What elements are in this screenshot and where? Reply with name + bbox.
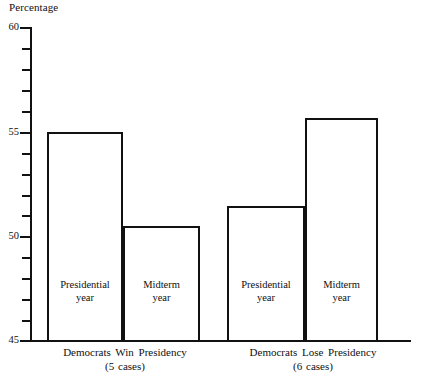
group-caption-lose-main: Democrats Lose Presidency — [215, 345, 411, 359]
y-tick-57 — [22, 90, 31, 92]
bar-win-presidential-label-line2: year — [49, 291, 121, 304]
group-caption-win: Democrats Win Presidency (5 cases) — [32, 345, 218, 373]
group-caption-lose: Democrats Lose Presidency (6 cases) — [215, 345, 411, 373]
bar-lose-presidential-label-line1: Presidential — [229, 278, 303, 291]
y-tick-48 — [22, 278, 31, 280]
bar-lose-presidential[interactable]: Presidential year — [227, 206, 305, 341]
y-tick-50 — [20, 236, 31, 238]
y-tick-58 — [22, 69, 31, 71]
bar-win-midterm-label-line1: Midterm — [125, 278, 198, 291]
y-tick-46 — [22, 320, 31, 322]
bar-win-midterm-label-line2: year — [125, 291, 198, 304]
group-caption-win-sub: (5 cases) — [32, 359, 218, 373]
y-tick-56 — [22, 111, 31, 113]
y-tick-59 — [22, 48, 31, 50]
y-tick-47 — [22, 299, 31, 301]
bar-lose-midterm[interactable]: Midterm year — [305, 118, 378, 341]
bar-win-midterm[interactable]: Midterm year — [123, 226, 200, 341]
bar-lose-presidential-label-line2: year — [229, 291, 303, 304]
bar-chart: Percentage 60 55 50 45 Presidential year… — [0, 0, 421, 385]
bar-win-presidential[interactable]: Presidential year — [47, 132, 123, 341]
y-axis-title: Percentage — [9, 1, 58, 14]
y-axis-line — [30, 27, 32, 342]
y-tick-53 — [22, 174, 31, 176]
y-tick-label-60: 60 — [1, 22, 19, 33]
bar-lose-midterm-label-line1: Midterm — [307, 278, 376, 291]
y-tick-60 — [20, 27, 31, 29]
y-tick-51 — [22, 215, 31, 217]
y-tick-52 — [22, 195, 31, 197]
y-tick-54 — [22, 153, 31, 155]
bar-lose-midterm-label-line2: year — [307, 291, 376, 304]
y-tick-49 — [22, 257, 31, 259]
y-tick-55 — [20, 132, 31, 134]
group-caption-win-main: Democrats Win Presidency — [32, 345, 218, 359]
y-tick-label-55: 55 — [1, 127, 19, 138]
bar-win-presidential-label-line1: Presidential — [49, 278, 121, 291]
y-tick-label-45: 45 — [1, 335, 19, 346]
group-caption-lose-sub: (6 cases) — [215, 359, 411, 373]
y-tick-label-50: 50 — [1, 231, 19, 242]
